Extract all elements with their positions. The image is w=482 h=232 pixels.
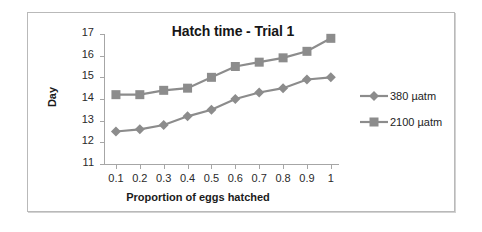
marker-square xyxy=(302,47,311,56)
y-tick-label: 17 xyxy=(82,26,94,38)
marker-square xyxy=(231,62,240,71)
marker-square xyxy=(111,90,120,99)
legend-marker-diamond-icon xyxy=(359,89,389,103)
legend-marker-square-icon xyxy=(359,115,389,129)
y-tick-label: 15 xyxy=(82,69,94,81)
y-tick-label: 16 xyxy=(82,48,94,60)
marker-square xyxy=(255,58,264,67)
y-tick-label: 11 xyxy=(83,156,94,168)
plot-area: 17161514131211 0.10.20.30.40.50.60.70.80… xyxy=(104,34,338,164)
y-tick-label: 14 xyxy=(82,91,94,103)
series-line xyxy=(116,77,331,131)
marker-diamond xyxy=(111,127,121,137)
series-square xyxy=(111,34,335,99)
marker-square xyxy=(279,53,288,62)
y-tick-label: 13 xyxy=(82,113,94,125)
marker-square xyxy=(183,84,192,93)
marker-square xyxy=(159,86,168,95)
x-axis-title: Proportion of eggs hatched xyxy=(68,191,328,203)
legend-label: 2100 µatm xyxy=(389,116,442,128)
x-tick-label: 1 xyxy=(316,172,346,184)
y-tick-label: 12 xyxy=(82,134,94,146)
legend-label: 380 µatm xyxy=(389,90,436,102)
marker-square xyxy=(326,34,335,43)
marker-square xyxy=(207,73,216,82)
series-diamond xyxy=(111,72,336,136)
legend-entry[interactable]: 2100 µatm xyxy=(359,109,455,135)
chart-legend: 380 µatm2100 µatm xyxy=(359,83,455,135)
series-plot xyxy=(104,34,339,165)
marker-diamond xyxy=(230,94,240,104)
series-line xyxy=(116,38,331,94)
marker-diamond xyxy=(302,75,312,85)
marker-diamond xyxy=(278,83,288,93)
marker-diamond xyxy=(206,105,216,115)
marker-diamond xyxy=(135,124,145,134)
marker-diamond xyxy=(183,111,193,121)
chart-figure-frame: Hatch time - Trial 1 Day Proportion of e… xyxy=(27,12,455,212)
legend-entry[interactable]: 380 µatm xyxy=(359,83,455,109)
y-axis-title: Day xyxy=(46,67,58,127)
marker-diamond xyxy=(254,88,264,98)
marker-diamond xyxy=(159,120,169,130)
marker-square xyxy=(135,90,144,99)
marker-diamond xyxy=(326,72,336,82)
